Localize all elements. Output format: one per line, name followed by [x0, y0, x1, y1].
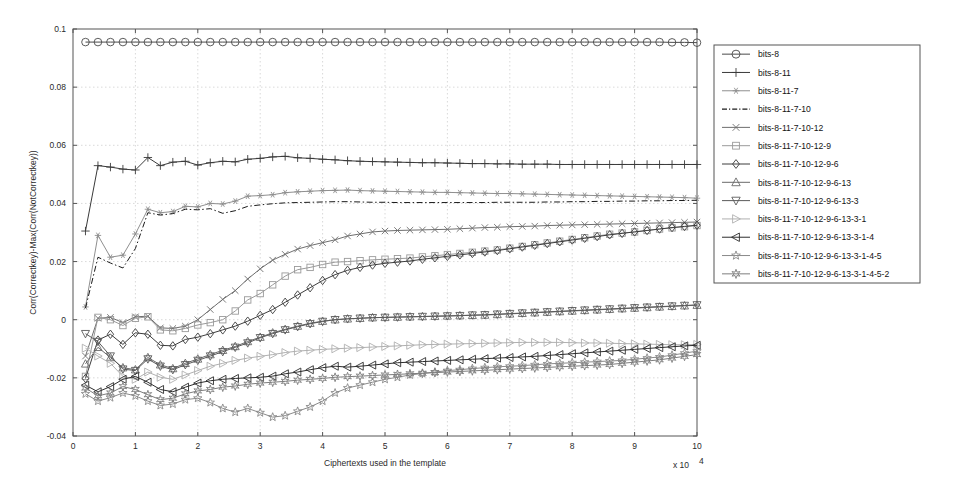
- x-axis-title: Ciphertexts used in the template: [324, 458, 446, 468]
- legend-item-label: bits-8-11-7-10-12-9-6-13: [758, 178, 851, 188]
- x-tick-label: 3: [258, 441, 263, 451]
- x-tick-label: 6: [445, 441, 450, 451]
- y-tick-label: -0.02: [47, 373, 67, 383]
- series-line: [85, 156, 697, 231]
- series-bits-8-11-7: [82, 187, 700, 309]
- legend-item-label: bits-8-11-7-10-12-9-6-13-3-1-4-5-2: [758, 269, 889, 279]
- legend: bits-8bits-8-11bits-8-11-7bits-8-11-7-10…: [714, 45, 920, 283]
- legend-item-label: bits-8-11-7-10-12-9-6-13-3-1-4-5: [758, 251, 882, 261]
- series-bits-8-11-7-10: [85, 200, 697, 308]
- legend-item-5[interactable]: bits-8-11-7-10-12-9: [722, 141, 831, 151]
- x-tick-label: 7: [507, 441, 512, 451]
- chart-svg: 012345678910-0.04-0.0200.020.040.060.080…: [0, 0, 960, 499]
- x-tick-labels: 012345678910: [71, 441, 702, 451]
- x-axis-exponent-sup: 4: [699, 456, 704, 466]
- series-line: [85, 225, 697, 378]
- chart-figure: 012345678910-0.04-0.0200.020.040.060.080…: [0, 0, 960, 499]
- legend-item-label: bits-8-11-7-10-12-9-6-13-3-1-4: [758, 232, 874, 242]
- series-bits-8-11-7-10-12: [82, 219, 700, 359]
- y-tick-labels: -0.04-0.0200.020.040.060.080.1: [47, 24, 67, 441]
- series-bits-8: [82, 38, 701, 46]
- data-series-group: [81, 38, 701, 420]
- legend-item-label: bits-8-11-7-10-12: [758, 123, 823, 133]
- y-tick-label: 0: [61, 315, 66, 325]
- series-bits-8-11-7-10-12-9: [82, 222, 700, 379]
- y-tick-label: 0.06: [49, 140, 66, 150]
- legend-item-label: bits-8: [758, 49, 779, 59]
- series-line: [85, 345, 697, 392]
- y-tick-label: 0.08: [49, 82, 66, 92]
- series-line: [85, 226, 697, 377]
- x-tick-label: 2: [195, 441, 200, 451]
- series-bits-8-11-7-10-12-9-6: [82, 221, 700, 383]
- legend-item-label: bits-8-11: [758, 68, 791, 78]
- legend-item-label: bits-8-11-7-10-12-9-6-13-3-1: [758, 214, 866, 224]
- series-line: [85, 190, 697, 307]
- y-tick-label: 0.02: [49, 257, 66, 267]
- series-line: [85, 222, 697, 356]
- y-axis-title: Corr(Correctkey)-Max(Corr(NotCorrectkey)…: [28, 150, 38, 315]
- legend-item-label: bits-8-11-7: [758, 86, 799, 96]
- x-tick-label: 4: [320, 441, 325, 451]
- series-bits-8-11-7-10-12-9-6-13-3-1-4-5-2: [82, 350, 701, 404]
- series-line: [85, 200, 697, 308]
- x-tick-label: 9: [632, 441, 637, 451]
- legend-item-label: bits-8-11-7-10: [758, 104, 811, 114]
- y-tick-label: 0.04: [49, 198, 66, 208]
- x-tick-label: 8: [570, 441, 575, 451]
- x-tick-label: 10: [692, 441, 702, 451]
- x-tick-label: 0: [71, 441, 76, 451]
- y-tick-label: -0.04: [47, 431, 67, 441]
- series-line: [85, 42, 697, 43]
- series-bits-8-11-7-10-12-9-6-13-3-1-4-5: [81, 347, 701, 421]
- legend-item-label: bits-8-11-7-10-12-9-6-13-3: [758, 196, 859, 206]
- legend-item-label: bits-8-11-7-10-12-9-6: [758, 159, 839, 169]
- legend-item-label: bits-8-11-7-10-12-9: [758, 141, 831, 151]
- x-tick-label: 1: [133, 441, 138, 451]
- y-tick-label: 0.1: [54, 24, 66, 34]
- x-axis-exponent: x 10: [673, 460, 689, 470]
- marker-star6: [82, 384, 90, 393]
- series-line: [85, 351, 697, 417]
- x-tick-label: 5: [383, 441, 388, 451]
